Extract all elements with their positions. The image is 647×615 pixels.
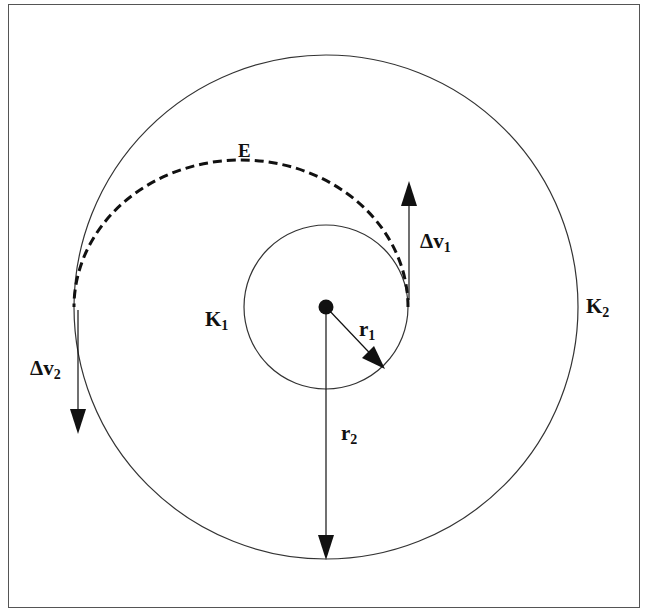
transfer-orbit-e [74,160,408,307]
hohmann-diagram: E K1 K2 r1 r2 Δv1 Δv2 [0,0,647,615]
label-delta-v2: Δv2 [30,356,61,382]
label-k2: K2 [586,294,609,320]
radius-r2-arrowhead-icon [318,535,334,560]
delta-v1-arrowhead-icon [401,181,417,206]
label-r1: r1 [359,317,375,343]
label-delta-v1: Δv1 [420,229,451,255]
radius-r1-arrowhead-icon [362,346,385,369]
label-e: E [238,140,251,161]
label-r2: r2 [341,421,357,447]
delta-v2-arrowhead-icon [70,409,86,434]
label-k1: K1 [205,307,228,333]
